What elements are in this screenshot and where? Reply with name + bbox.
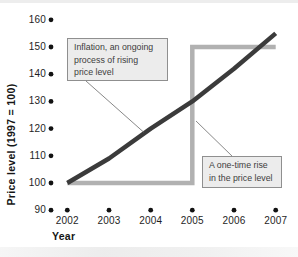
x-tick-label: 2007	[259, 215, 293, 227]
x-tick-dot	[273, 208, 278, 213]
x-tick-label: 2005	[175, 215, 209, 227]
x-tick-dot	[107, 208, 112, 213]
x-tick-label: 2006	[217, 215, 251, 227]
annotation-inflation-line1: Inflation, an ongoing	[74, 41, 167, 54]
y-axis-title: Price level (1997 = 100)	[5, 74, 17, 215]
price-level-chart: 1601501401301201101009020022003200420052…	[0, 0, 298, 257]
annotation-onetime-line2: in the price level	[209, 172, 281, 185]
x-tick-label: 2003	[92, 215, 126, 227]
annotation-inflation-line2: process of rising	[74, 54, 167, 67]
y-tick-dot	[49, 181, 54, 186]
y-tick-dot	[49, 72, 54, 77]
annotation-onetime-line1: A one-time rise	[209, 159, 281, 172]
y-tick-label: 140	[16, 68, 46, 80]
x-tick-label: 2004	[134, 215, 168, 227]
y-tick-dot	[49, 17, 54, 22]
y-tick-label: 120	[16, 123, 46, 135]
y-tick-dot	[49, 208, 54, 213]
y-tick-label: 110	[16, 150, 46, 162]
y-tick-dot	[49, 45, 54, 50]
annotation-inflation-box: Inflation, an ongoing process of rising …	[67, 38, 168, 81]
x-tick-dot	[65, 208, 70, 213]
y-tick-label: 90	[16, 204, 46, 216]
y-tick-label: 100	[16, 177, 46, 189]
y-tick-label: 160	[16, 14, 46, 26]
annotation-inflation-line3: price level	[74, 66, 167, 79]
inflation-pointer-line	[86, 81, 144, 132]
x-tick-dot	[148, 208, 153, 213]
y-tick-dot	[49, 126, 54, 131]
y-tick-label: 130	[16, 95, 46, 107]
y-tick-label: 150	[16, 41, 46, 53]
x-axis-title: Year	[52, 230, 75, 242]
y-tick-dot	[49, 99, 54, 104]
y-tick-dot	[49, 153, 54, 158]
annotation-onetime-box: A one-time rise in the price level	[202, 156, 282, 188]
x-tick-label: 2002	[50, 215, 84, 227]
one-time-pointer-line	[196, 121, 233, 157]
x-tick-dot	[190, 208, 195, 213]
x-tick-dot	[232, 208, 237, 213]
